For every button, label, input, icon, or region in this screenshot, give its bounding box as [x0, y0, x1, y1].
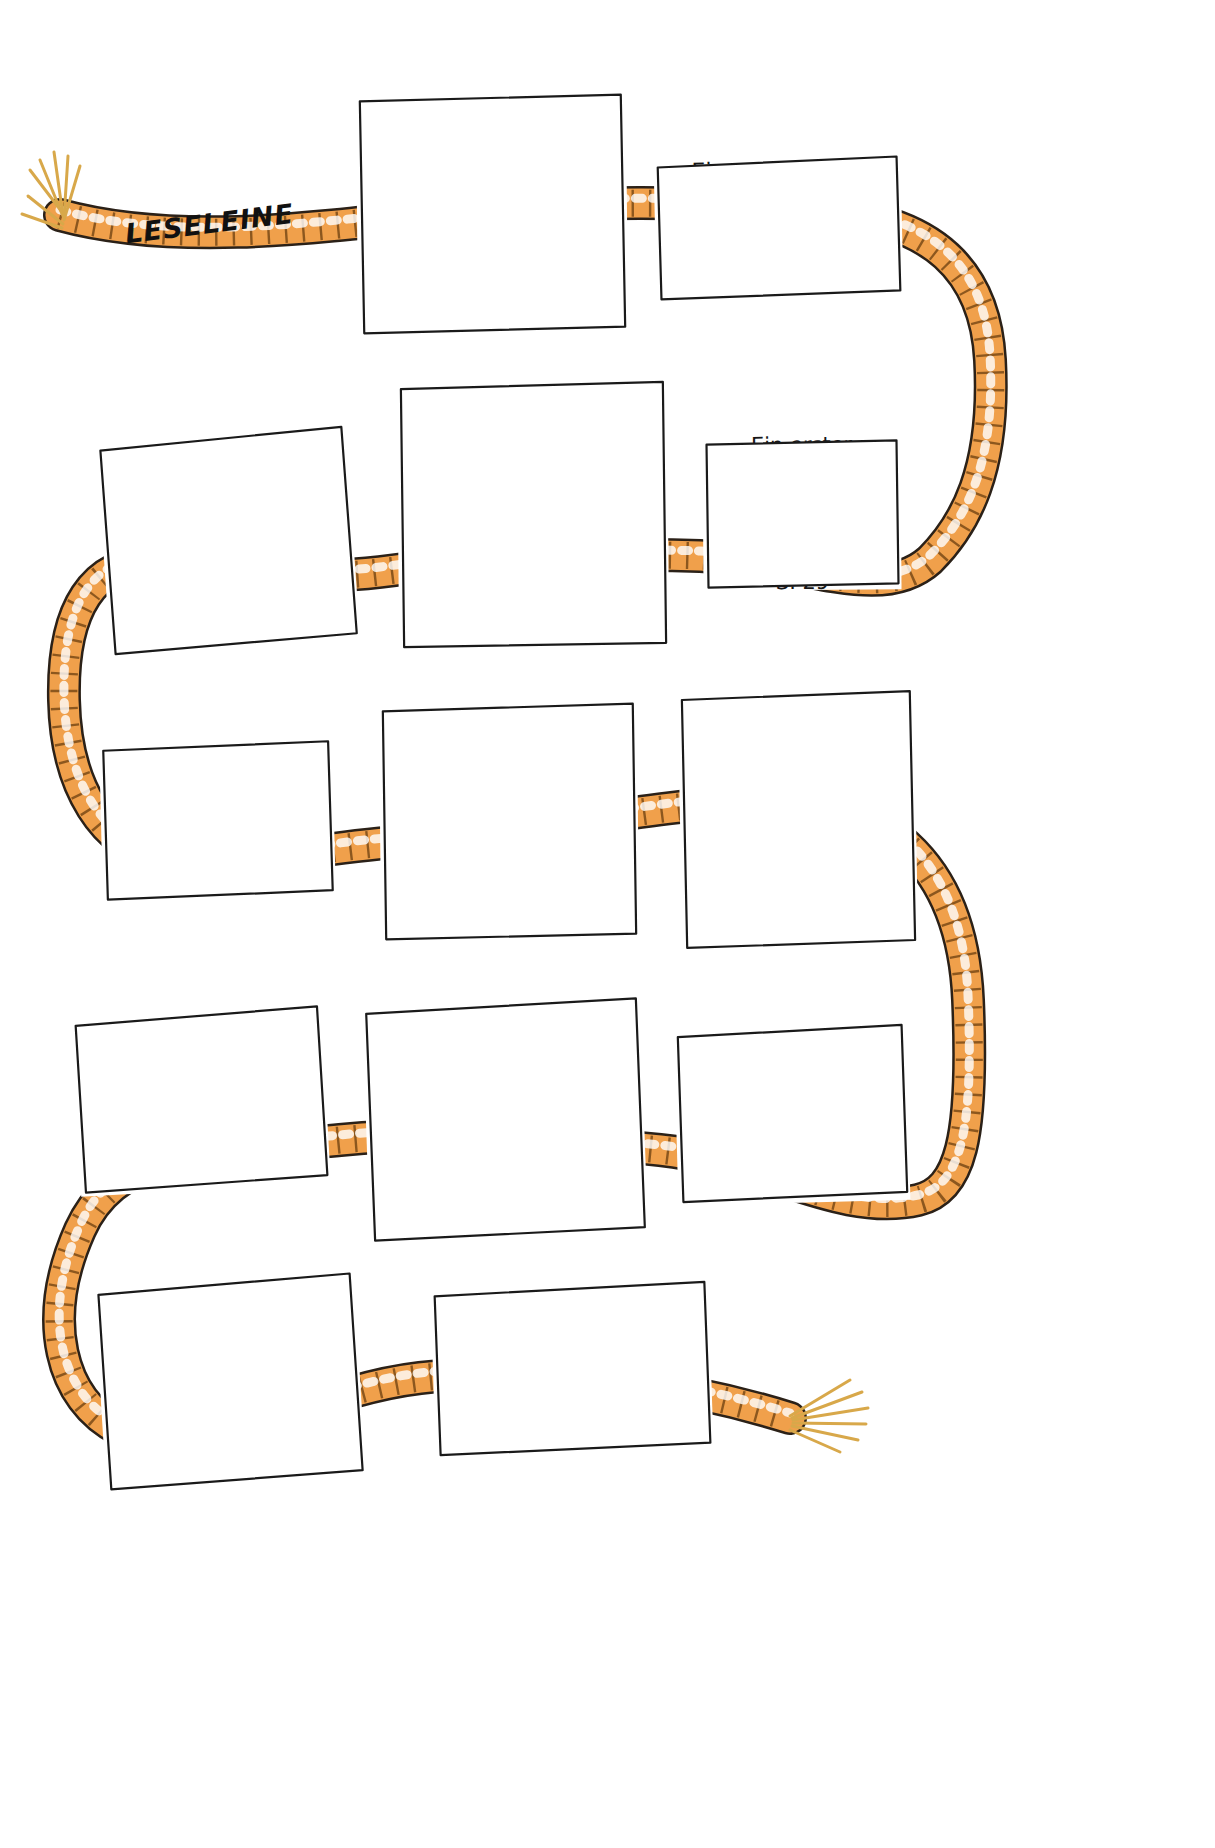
- chapter-card-12[interactable]: Schnell noch eine kurze Nachbemerkung, b…: [94, 1270, 366, 1493]
- card-3-text: Erster Ausflug / 2. Teil: Der Bernd vert…: [397, 389, 669, 641]
- card-11-text: Ein neues Bein und ein schneller Flitzer…: [674, 1041, 910, 1188]
- card-13-text: Halt – fast hätt ich's vergessen – da is…: [431, 1294, 713, 1443]
- card-4-text: Ein erster Ausflug, weil der Hasenmist w…: [702, 429, 901, 598]
- leseleine-banner-label: LESELEINE: [124, 198, 296, 249]
- card-10-text: Ein Sonntagsausflug, Besuch in der Verga…: [363, 1018, 648, 1223]
- rope-frayed-end-right: [790, 1380, 868, 1452]
- chapter-card-5[interactable]: Von Sorgen umzingelt: Was wird aus Zwick…: [96, 424, 361, 659]
- chapter-card-4[interactable]: Ein erster Ausflug, weil der Hasenmist w…: [702, 437, 901, 590]
- card-12-text: Schnell noch eine kurze Nachbemerkung, b…: [96, 1304, 364, 1460]
- chapter-card-2[interactable]: Ein neues Nest, das alte Lied und Zwick …: [654, 152, 904, 302]
- card-1-text: Schönstes Wetter für einen Umzug, Ausbru…: [356, 110, 628, 317]
- leseleine-diagram: LESELEINE Schönstes Wetter für einen Umz…: [0, 0, 1215, 1848]
- card-6-text: Gute Aussichten, ein überraschendes Ange…: [100, 762, 336, 881]
- chapter-card-10[interactable]: Ein Sonntagsausflug, Besuch in der Verga…: [362, 995, 648, 1245]
- card-2-text: Ein neues Nest, das alte Lied und Zwick …: [653, 151, 903, 303]
- chapter-card-1[interactable]: Schönstes Wetter für einen Umzug, Ausbru…: [356, 91, 629, 337]
- chapter-card-7[interactable]: Die Miker, die neue Lederjacke, eine Mut…: [379, 701, 639, 944]
- card-7-text: Die Miker, die neue Lederjacke, eine Mut…: [379, 715, 639, 938]
- chapter-card-13[interactable]: Halt – fast hätt ich's vergessen – da is…: [430, 1279, 713, 1460]
- chapter-card-3[interactable]: Erster Ausflug / 2. Teil: Der Bernd vert…: [397, 379, 669, 651]
- rope-frayed-end-left: [22, 152, 80, 228]
- chapter-card-8[interactable]: Der Bernd, die Gabi und der Schatz S. 81: [678, 688, 919, 952]
- card-7-annotation: Eine Mutprobe soll Bernd ablegen, doch e…: [386, 830, 633, 936]
- chapter-card-9[interactable]: Vorläufiger Schluss, ein ganz anderer Mi…: [71, 1003, 331, 1197]
- card-8-text: Der Bernd, die Gabi und der Schatz S. 81: [679, 736, 916, 826]
- card-5-text: Von Sorgen umzingelt: Was wird aus Zwick…: [97, 449, 358, 634]
- chapter-card-6[interactable]: Gute Aussichten, ein überraschendes Ange…: [99, 738, 336, 904]
- chapter-card-11[interactable]: Ein neues Bein und ein schneller Flitzer…: [674, 1022, 911, 1206]
- card-9-text: Vorläufiger Schluss, ein ganz anderer Mi…: [72, 1023, 329, 1177]
